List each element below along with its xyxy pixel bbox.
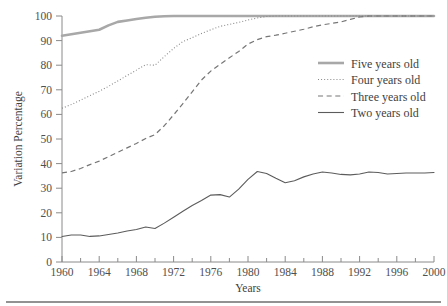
chart-figure: 0102030405060708090100 19601964196819721… [0,0,447,306]
y-tick-label: 30 [41,182,53,194]
legend-label-three-years-old: Three years old [351,90,426,104]
x-tick-label: 1988 [311,266,334,278]
chart-background [0,0,447,306]
legend-label-four-years-old: Four years old [351,73,420,87]
y-tick-label: 90 [41,35,53,47]
x-tick-label: 1984 [274,266,297,278]
x-tick-label: 2000 [423,266,446,278]
y-axis-title: Variation Percentage [12,91,25,186]
x-tick-label: 1968 [125,266,148,278]
x-axis-title: Years [235,282,261,294]
x-tick-label: 1976 [199,266,222,278]
y-tick-label: 50 [41,133,53,145]
y-tick-label: 10 [41,231,53,243]
x-tick-label: 1992 [348,266,371,278]
y-tick-label: 40 [41,158,53,170]
x-axis-tick-labels: 1960196419681972197619801984198819921996… [51,266,446,278]
x-tick-label: 1996 [385,266,408,278]
y-tick-label: 100 [35,10,53,22]
legend-label-two-years-old: Two years old [351,106,419,120]
x-tick-label: 1980 [237,266,260,278]
line-chart: 0102030405060708090100 19601964196819721… [0,0,447,306]
y-tick-label: 80 [41,59,53,71]
x-tick-label: 1972 [162,266,185,278]
legend-label-five-years-old: Five years old [351,57,419,71]
x-tick-label: 1964 [88,266,111,278]
y-tick-label: 70 [41,84,53,96]
y-tick-label: 20 [41,207,53,219]
y-tick-label: 60 [41,108,53,120]
x-tick-label: 1960 [51,266,74,278]
